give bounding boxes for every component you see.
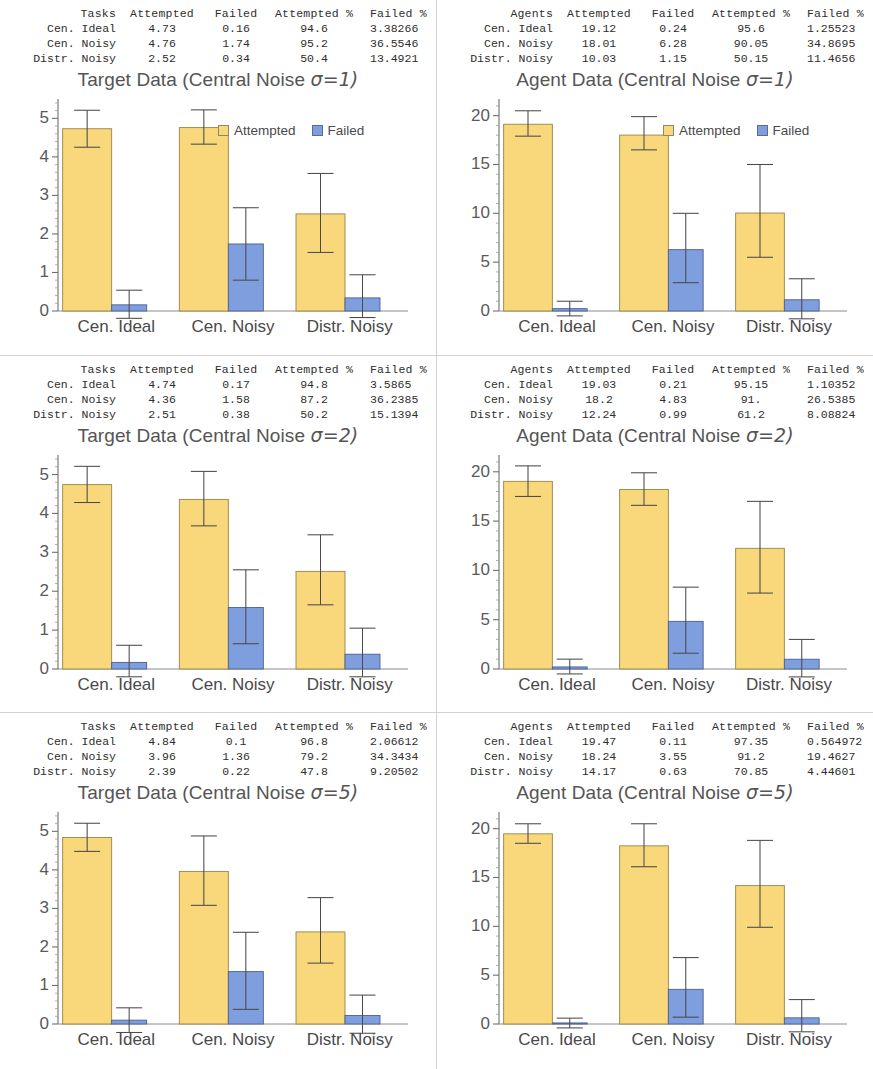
cell-value: 19.12 xyxy=(557,21,641,36)
cell-value: 0.34 xyxy=(204,51,268,66)
chart-title: Target Data (Central Noise σ=2) xyxy=(0,424,436,447)
panel-target-sigma5: TasksAttemptedFailedAttempted %Failed %C… xyxy=(0,713,437,1069)
table-row: Cen. Noisy18.243.5591.219.4627 xyxy=(437,749,873,764)
cell-value: 18.2 xyxy=(557,392,641,407)
cell-value: 2.06612 xyxy=(360,734,436,749)
y-tick-label: 0 xyxy=(481,1014,490,1033)
table-header-row: AgentsAttemptedFailedAttempted %Failed % xyxy=(437,6,873,21)
cell-value: 87.2 xyxy=(268,392,360,407)
panel-grid: TasksAttemptedFailedAttempted %Failed %C… xyxy=(0,0,873,1069)
row-label: Cen. Ideal xyxy=(437,734,557,749)
legend-swatch-attempted xyxy=(218,125,229,136)
cell-value: 1.36 xyxy=(204,749,268,764)
legend-swatch-failed xyxy=(312,125,323,136)
bar-attempted xyxy=(63,838,112,1024)
column-header-3: Attempted % xyxy=(705,6,797,21)
cell-value: 61.2 xyxy=(705,407,797,422)
cell-value: 95.6 xyxy=(705,21,797,36)
cell-value: 3.38266 xyxy=(360,21,436,36)
y-tick-label: 15 xyxy=(471,867,490,886)
table-row: Cen. Ideal4.740.1794.83.5865 xyxy=(0,377,436,392)
chart-title-sigma: σ=5) xyxy=(746,781,794,803)
cell-value: 3.5865 xyxy=(360,377,436,392)
y-tick-label: 5 xyxy=(40,465,49,484)
table-row: Cen. Ideal4.730.1694.63.38266 xyxy=(0,21,436,36)
chart-legend: AttemptedFailed xyxy=(663,123,809,138)
cell-value: 1.74 xyxy=(204,36,268,51)
y-tick-label: 5 xyxy=(40,821,49,840)
error-bar xyxy=(116,290,142,318)
column-header-2: Failed xyxy=(641,362,705,377)
cell-value: 91. xyxy=(705,392,797,407)
cell-value: 4.73 xyxy=(120,21,204,36)
cell-value: 10.03 xyxy=(557,51,641,66)
column-header-2: Failed xyxy=(204,719,268,734)
x-category-label: Distr. Noisy xyxy=(307,675,393,694)
column-header-4: Failed % xyxy=(797,719,873,734)
chart-title-sigma: σ=1) xyxy=(311,68,359,90)
table-row: Cen. Noisy18.24.8391.26.5385 xyxy=(437,392,873,407)
row-label: Distr. Noisy xyxy=(0,764,120,779)
plot-area: 012345Cen. IdealCen. NoisyDistr. NoisyAt… xyxy=(18,93,418,341)
y-tick-label: 2 xyxy=(40,581,49,600)
column-header-3: Attempted % xyxy=(268,719,360,734)
cell-value: 4.36 xyxy=(120,392,204,407)
y-tick-label: 0 xyxy=(481,659,490,678)
y-tick-label: 4 xyxy=(40,147,49,166)
bar-attempted xyxy=(504,124,553,311)
bar-chart: 012345Cen. IdealCen. NoisyDistr. Noisy xyxy=(18,806,418,1054)
cell-value: 6.28 xyxy=(641,36,705,51)
legend-swatch-attempted xyxy=(663,125,674,136)
data-table: AgentsAttemptedFailedAttempted %Failed %… xyxy=(437,362,873,422)
cell-value: 91.2 xyxy=(705,749,797,764)
y-tick-label: 5 xyxy=(481,252,490,271)
table-row: Cen. Noisy18.016.2890.0534.8695 xyxy=(437,36,873,51)
plot-area: 05101520Cen. IdealCen. NoisyDistr. Noisy xyxy=(453,806,857,1054)
cell-value: 4.83 xyxy=(641,392,705,407)
chart-legend: AttemptedFailed xyxy=(218,123,364,138)
data-table: AgentsAttemptedFailedAttempted %Failed %… xyxy=(437,6,873,66)
y-tick-label: 20 xyxy=(471,819,490,838)
chart-title: Target Data (Central Noise σ=5) xyxy=(0,781,436,804)
chart-title-sigma: σ=1) xyxy=(746,68,794,90)
column-header-4: Failed % xyxy=(797,6,873,21)
x-category-label: Cen. Noisy xyxy=(631,1030,715,1049)
column-header-1: Attempted xyxy=(120,719,204,734)
table-row: Cen. Ideal19.030.2195.151.10352 xyxy=(437,377,873,392)
row-label: Cen. Ideal xyxy=(0,21,120,36)
x-category-label: Distr. Noisy xyxy=(746,675,832,694)
cell-value: 0.11 xyxy=(641,734,705,749)
y-tick-label: 1 xyxy=(40,620,49,639)
chart-title: Agent Data (Central Noise σ=1) xyxy=(437,68,873,91)
table-row: Cen. Noisy3.961.3679.234.3434 xyxy=(0,749,436,764)
column-header-2: Failed xyxy=(204,362,268,377)
cell-value: 34.8695 xyxy=(797,36,873,51)
cell-value: 2.51 xyxy=(120,407,204,422)
cell-value: 94.6 xyxy=(268,21,360,36)
chart-title-main: Target Data (Central Noise xyxy=(78,782,311,803)
row-label: Cen. Ideal xyxy=(437,21,557,36)
cell-value: 12.24 xyxy=(557,407,641,422)
y-tick-label: 2 xyxy=(40,937,49,956)
cell-value: 97.35 xyxy=(705,734,797,749)
table-row: Distr. Noisy2.390.2247.89.20502 xyxy=(0,764,436,779)
legend-item-attempted: Attempted xyxy=(663,123,741,138)
row-label: Distr. Noisy xyxy=(437,764,557,779)
y-tick-label: 0 xyxy=(481,301,490,320)
y-tick-label: 4 xyxy=(40,860,49,879)
cell-value: 90.05 xyxy=(705,36,797,51)
cell-value: 47.8 xyxy=(268,764,360,779)
x-category-label: Cen. Noisy xyxy=(631,317,715,336)
y-tick-label: 5 xyxy=(481,965,490,984)
y-tick-label: 10 xyxy=(471,203,490,222)
table-header-row: TasksAttemptedFailedAttempted %Failed % xyxy=(0,6,436,21)
row-label: Cen. Noisy xyxy=(0,749,120,764)
error-bar xyxy=(789,279,815,319)
cell-value: 36.5546 xyxy=(360,36,436,51)
column-header-0: Agents xyxy=(437,719,557,734)
y-tick-label: 1 xyxy=(40,975,49,994)
cell-value: 95.2 xyxy=(268,36,360,51)
legend-item-attempted: Attempted xyxy=(218,123,296,138)
error-bar xyxy=(789,639,815,676)
cell-value: 4.74 xyxy=(120,377,204,392)
